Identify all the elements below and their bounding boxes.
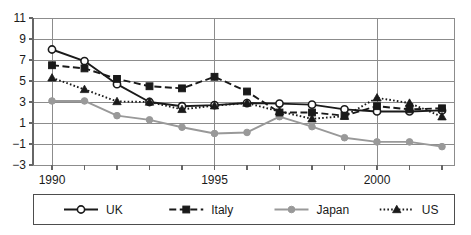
legend-label-italy: Italy: [211, 203, 233, 217]
series-japan-marker-filled-circle: [309, 123, 316, 130]
legend-uk-marker-open-circle: [77, 206, 84, 213]
legend-japan-marker-filled-circle: [288, 206, 295, 213]
y-tick-label: 3: [19, 95, 26, 109]
y-tick-label: −3: [12, 158, 26, 172]
series-italy-marker-filled-square: [276, 109, 283, 116]
series-japan-marker-filled-circle: [439, 143, 446, 150]
legend: UKItalyJapanUS: [33, 194, 454, 224]
legend-label-japan: Japan: [317, 203, 350, 217]
series-uk-marker-open-circle: [81, 57, 88, 64]
series-italy-marker-filled-square: [81, 65, 88, 72]
series-japan-marker-filled-circle: [146, 117, 153, 124]
y-tick-label: 5: [19, 74, 26, 88]
legend-italy-marker-filled-square: [183, 206, 190, 213]
series-uk-marker-open-circle: [276, 100, 283, 107]
series-italy-marker-filled-square: [374, 103, 381, 110]
chart-svg: 1197531−1−3199019952000UKItalyJapanUS: [0, 0, 471, 235]
y-axis: 1197531−1−3: [12, 11, 33, 172]
series-italy-marker-filled-square: [49, 62, 56, 69]
series-japan-marker-filled-circle: [341, 134, 348, 141]
series-japan-marker-filled-circle: [81, 98, 88, 105]
series-japan-marker-filled-circle: [114, 112, 121, 119]
series-italy-marker-filled-square: [179, 85, 186, 92]
y-tick-label: 11: [14, 11, 27, 25]
x-tick-label: 2000: [364, 173, 391, 187]
series-italy-marker-filled-square: [114, 76, 121, 83]
y-tick-label: 7: [19, 53, 26, 67]
y-tick-label: 1: [19, 116, 26, 130]
line-chart: 1197531−1−3199019952000UKItalyJapanUS: [0, 0, 471, 235]
y-tick-label: 9: [19, 32, 26, 46]
series-japan-marker-filled-circle: [374, 139, 381, 146]
series-japan-marker-filled-circle: [49, 98, 56, 105]
series-italy-marker-filled-square: [244, 88, 251, 95]
legend-label-us: US: [422, 203, 439, 217]
series-uk-marker-open-circle: [308, 101, 315, 108]
series-japan-marker-filled-circle: [406, 139, 413, 146]
series-uk-marker-open-circle: [48, 46, 55, 53]
series-italy-marker-filled-square: [341, 112, 348, 119]
series-japan-marker-filled-circle: [244, 129, 251, 136]
series-japan-marker-filled-circle: [179, 124, 186, 131]
x-tick-label: 1995: [201, 173, 228, 187]
series-japan-marker-filled-circle: [211, 130, 218, 137]
y-tick-label: −1: [12, 137, 26, 151]
x-axis: 199019952000: [39, 165, 442, 187]
series-italy-marker-filled-square: [406, 106, 413, 113]
series-italy-marker-filled-square: [309, 109, 316, 116]
series-italy-marker-filled-square: [211, 73, 218, 80]
series-italy-marker-filled-square: [146, 83, 153, 90]
series-italy-marker-filled-square: [439, 105, 446, 112]
legend-label-uk: UK: [106, 203, 123, 217]
x-tick-label: 1990: [39, 173, 66, 187]
